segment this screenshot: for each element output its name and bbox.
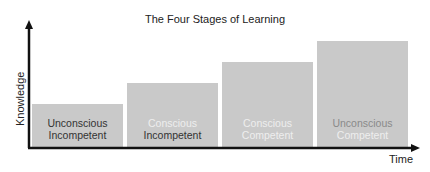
axes: [0, 0, 430, 172]
x-axis-arrow-icon: [411, 144, 420, 152]
y-axis-arrow-icon: [25, 20, 33, 29]
